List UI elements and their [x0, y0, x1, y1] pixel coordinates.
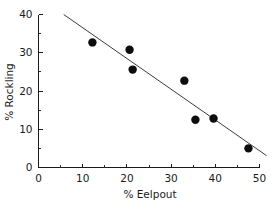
chart-canvas: 01020304050010203040 % Eelpout % Rocklin… [0, 0, 276, 204]
data-point [191, 115, 199, 123]
y-tick-label: 40 [19, 8, 32, 20]
x-tick-label: 50 [253, 172, 266, 184]
scatter-plot-figure: 01020304050010203040 % Eelpout % Rocklin… [0, 0, 276, 204]
x-tick-label: 10 [76, 172, 89, 184]
x-tick-label: 20 [120, 172, 133, 184]
y-tick-label: 20 [19, 85, 32, 97]
data-point [128, 65, 136, 73]
y-tick-label: 0 [26, 161, 33, 173]
y-tick-label: 30 [19, 46, 32, 58]
x-tick-label: 40 [209, 172, 222, 184]
axes-group [39, 15, 260, 168]
data-point [209, 114, 217, 122]
data-point [88, 38, 96, 46]
data-point [244, 144, 252, 152]
data-points-group [88, 38, 252, 152]
trendline [64, 15, 267, 156]
x-tick-label: 0 [35, 172, 42, 184]
tick-labels-group: 01020304050010203040 [19, 8, 266, 183]
y-tick-label: 10 [19, 123, 32, 135]
data-point [125, 45, 133, 53]
ticks-group [39, 15, 260, 168]
data-point [180, 76, 188, 84]
y-axis-title: % Rockling [3, 63, 15, 121]
x-axis-title: % Eelpout [123, 188, 176, 200]
regression-line [64, 15, 267, 156]
x-tick-label: 30 [164, 172, 177, 184]
